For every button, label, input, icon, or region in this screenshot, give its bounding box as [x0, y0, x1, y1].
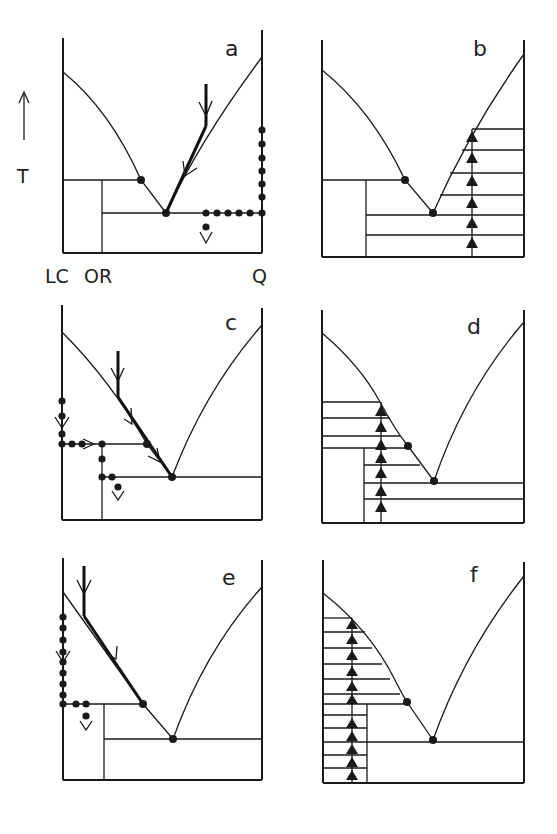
label-or: OR — [84, 265, 112, 287]
panel-c: c — [55, 305, 262, 520]
t-axis-label: T — [16, 165, 29, 187]
panel-b: b — [322, 36, 524, 257]
panel-label-f: f — [470, 562, 479, 587]
panel-label-a: a — [225, 36, 238, 61]
panel-e: e — [56, 558, 262, 780]
panel-label-b: b — [473, 36, 487, 61]
q-liquidus-curve — [166, 57, 262, 213]
panel-f: f — [323, 560, 524, 783]
peritectic-dot — [137, 176, 145, 184]
panel-label-c: c — [225, 310, 237, 335]
panel-a: a LC OR Q — [45, 30, 267, 287]
lc-liquidus-curve — [63, 72, 166, 213]
panel-label-e: e — [222, 565, 236, 590]
label-q: Q — [252, 265, 267, 287]
phase-diagram-figure: T — [0, 0, 557, 834]
panel-label-d: d — [467, 314, 481, 339]
solid-path-dots — [200, 126, 266, 243]
panel-d: d — [322, 310, 524, 523]
label-lc: LC — [45, 265, 69, 287]
triangle-markers — [375, 405, 387, 512]
temperature-axis-indicator: T — [16, 92, 29, 187]
